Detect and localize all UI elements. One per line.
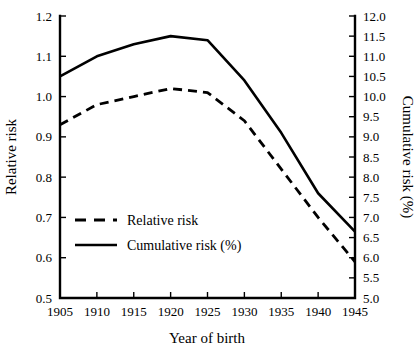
x-tick-label-1940: 1940: [305, 304, 331, 319]
x-tick-label-1930: 1930: [231, 304, 257, 319]
y2-tick-label-12.0: 12.0: [363, 9, 386, 24]
x-tick-label-1935: 1935: [268, 304, 294, 319]
y-tick-label-0.7: 0.7: [36, 210, 53, 225]
y2-tick-label-6.0: 6.0: [363, 250, 379, 265]
x-tick-label-1910: 1910: [84, 304, 110, 319]
y2-tick-label-7.0: 7.0: [363, 210, 379, 225]
y2-tick-label-8.0: 8.0: [363, 170, 379, 185]
y-tick-label-0.9: 0.9: [36, 129, 52, 144]
chart-series: [60, 36, 355, 262]
y-tick-label-0.6: 0.6: [36, 250, 53, 265]
x-tick-label-1925: 1925: [195, 304, 221, 319]
x-tick-label-1945: 1945: [342, 304, 368, 319]
y2-tick-label-9.0: 9.0: [363, 129, 379, 144]
y-tick-label-0.8: 0.8: [36, 170, 52, 185]
y2-tick-label-8.5: 8.5: [363, 150, 379, 165]
risk-trend-line-chart: 190519101915192019251930193519401945 0.5…: [0, 0, 415, 357]
y2-tick-label-6.5: 6.5: [363, 230, 379, 245]
y2-tick-label-10.0: 10.0: [363, 89, 386, 104]
axis-frame: [60, 16, 355, 298]
x-tick-label-1920: 1920: [158, 304, 184, 319]
y-tick-label-1.0: 1.0: [36, 89, 52, 104]
y2-tick-label-10.5: 10.5: [363, 69, 386, 84]
y2-tick-label-5.0: 5.0: [363, 291, 379, 306]
x-axis-tick-labels: 190519101915192019251930193519401945: [47, 304, 368, 319]
y2-tick-label-9.5: 9.5: [363, 109, 379, 124]
x-tick-label-1905: 1905: [47, 304, 73, 319]
x-tick-label-1915: 1915: [121, 304, 147, 319]
y2-axis-tick-labels: 5.05.56.06.57.07.58.08.59.09.510.010.511…: [363, 9, 386, 306]
y-tick-label-1.2: 1.2: [36, 9, 52, 24]
y2-tick-label-7.5: 7.5: [363, 190, 379, 205]
chart-container: 190519101915192019251930193519401945 0.5…: [0, 0, 415, 357]
series-line-relative-risk: [60, 89, 355, 262]
y-tick-label-1.1: 1.1: [36, 49, 52, 64]
chart-axes: [60, 16, 355, 298]
y2-tick-label-11.0: 11.0: [363, 49, 385, 64]
series-line-cumulative-risk: [60, 36, 355, 231]
chart-legend: Relative riskCumulative risk (%): [75, 213, 242, 254]
y-tick-label-0.5: 0.5: [36, 291, 52, 306]
y2-tick-label-5.5: 5.5: [363, 270, 379, 285]
x-axis-title: Year of birth: [169, 330, 245, 346]
y-axis-title: Relative risk: [3, 118, 19, 195]
legend-label-relative-risk: Relative risk: [127, 213, 198, 228]
y2-tick-label-11.5: 11.5: [363, 29, 385, 44]
legend-label-cumulative-risk: Cumulative risk (%): [127, 238, 242, 254]
y2-axis-title: Cumulative risk (%): [399, 96, 415, 218]
y-axis-tick-labels: 0.50.60.70.80.91.01.11.2: [36, 9, 53, 306]
